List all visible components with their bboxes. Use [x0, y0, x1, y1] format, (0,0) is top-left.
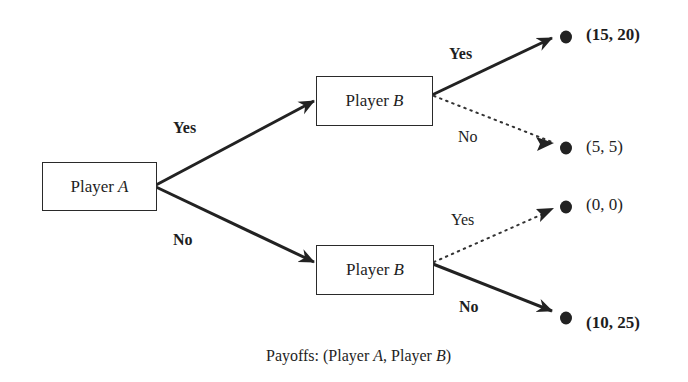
payoff-15-20: (15, 20)	[586, 25, 640, 45]
terminal-node-10-25	[560, 312, 572, 325]
edge-a-no	[156, 187, 314, 262]
caption-player-b-var: B	[436, 347, 446, 364]
edge-b-top-no	[434, 96, 552, 142]
node-player-b-top: PlayerB	[316, 76, 433, 126]
caption-player-a-var: A	[373, 347, 383, 364]
terminal-node-5-5	[560, 142, 572, 155]
node-player-a: PlayerA	[42, 162, 157, 211]
edge-label-b-top-yes: Yes	[449, 45, 472, 63]
edge-label-a-no: No	[173, 231, 193, 249]
node-player-b-bottom-var: B	[394, 260, 404, 280]
node-player-b-bottom: PlayerB	[316, 245, 434, 295]
node-player-b-top-label: Player	[346, 91, 389, 111]
arrowhead-b-bottom-yes	[536, 208, 554, 222]
edge-a-yes	[156, 101, 314, 185]
payoff-5-5: (5, 5)	[586, 137, 623, 157]
node-player-a-var: A	[118, 177, 128, 197]
terminal-node-15-20	[560, 31, 572, 44]
edge-label-a-yes: Yes	[173, 119, 196, 137]
payoff-10-25: (10, 25)	[586, 313, 640, 333]
node-player-b-top-var: B	[393, 91, 403, 111]
node-player-b-bottom-label: Player	[346, 260, 389, 280]
edge-b-bottom-no	[433, 264, 552, 311]
payoffs-caption: Payoffs: (Player A, Player B)	[266, 347, 451, 365]
edge-label-b-bottom-yes: Yes	[451, 211, 474, 229]
caption-prefix: Payoffs: (Player	[266, 347, 373, 364]
edge-label-b-bottom-no: No	[459, 298, 479, 316]
caption-mid: , Player	[383, 347, 436, 364]
edge-label-b-top-no: No	[458, 128, 478, 146]
terminal-node-0-0	[560, 201, 572, 214]
payoff-0-0: (0, 0)	[586, 195, 623, 215]
node-player-a-label: Player	[71, 177, 114, 197]
caption-suffix: )	[446, 347, 451, 364]
